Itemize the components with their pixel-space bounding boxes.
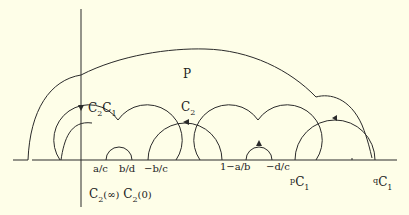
region-label-p: P — [183, 67, 191, 81]
axis-label-neg-b-over-c: −b/c — [144, 163, 168, 174]
curve-label-c2c1: C2C1 — [88, 101, 117, 115]
curve-label-qc1: qC1 — [373, 175, 392, 189]
arc-small-1 — [106, 147, 132, 160]
curve-label-pc1: pC1 — [290, 175, 309, 189]
arc-4 — [258, 105, 322, 160]
label-c2-infinity-c2-zero: C2(∞) C2(0) — [89, 187, 152, 201]
axis-label-b-over-d: b/d — [119, 163, 135, 174]
arc-2 — [118, 105, 182, 160]
boundary-curve-p — [28, 49, 372, 160]
arc-c2 — [148, 123, 222, 160]
arrow-down-icon — [78, 105, 84, 111]
curve-label-c2: C2 — [181, 100, 195, 114]
left-inner-arc — [61, 123, 92, 160]
axis-label-1-minus-a-over-b: 1−a/b — [220, 161, 250, 172]
axis-label-neg-d-over-c: −d/c — [266, 161, 290, 172]
arrow-left-icon — [183, 119, 189, 125]
arc-pc1 — [295, 120, 375, 160]
axis-label-a-over-c: a/c — [93, 163, 108, 174]
arrow-up-icon — [256, 140, 262, 146]
diagram-canvas — [0, 0, 409, 215]
arc-small-2 — [246, 147, 272, 160]
